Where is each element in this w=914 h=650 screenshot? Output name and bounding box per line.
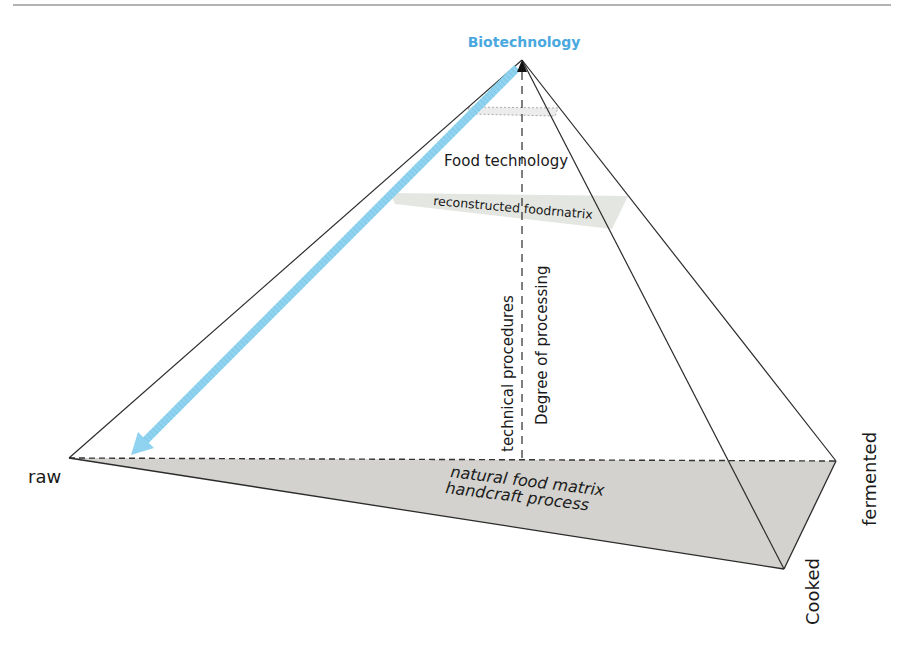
apex-label: Biotechnology	[468, 34, 581, 50]
cooked-label: Cooked	[802, 558, 823, 625]
degree-of-processing-label: Degree of processing	[533, 266, 551, 425]
edge-apex-left	[69, 60, 522, 458]
raw-label: raw	[28, 466, 61, 487]
technical-procedures-label: technical procedures	[499, 295, 517, 452]
food-technology-label: Food technology	[444, 152, 568, 170]
food-processing-pyramid-diagram: Biotechnology Food technology reconstruc…	[0, 0, 914, 650]
edge-apex-right	[522, 60, 836, 461]
fermented-label: fermented	[859, 432, 880, 526]
processing-arrow	[131, 68, 517, 455]
